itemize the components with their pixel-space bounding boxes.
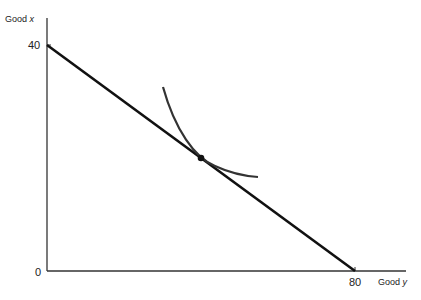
x-axis-label-text: Good [378, 277, 403, 287]
y-axis-label-var: x [30, 14, 35, 24]
origin-label: 0 [35, 266, 41, 278]
indifference-curve [163, 87, 258, 177]
y-axis-label: Good x [5, 14, 34, 24]
x-axis-label: Good y [378, 277, 407, 287]
x-axis-label-var: y [403, 277, 408, 287]
y-tick-label-40: 40 [28, 39, 40, 51]
chart-canvas [0, 0, 421, 300]
tangency-point [198, 155, 205, 162]
x-tick-label-80: 80 [349, 276, 361, 288]
y-axis-label-text: Good [5, 14, 30, 24]
